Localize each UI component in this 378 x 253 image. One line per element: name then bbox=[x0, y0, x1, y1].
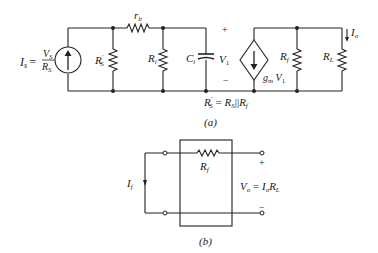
arrow-up-icon bbox=[65, 50, 72, 56]
terminal bbox=[163, 211, 167, 215]
circuit-diagram: Is= VS RS R′S rb Ri Ci V1 + − gm V1 Rf R… bbox=[0, 0, 378, 253]
io-arrow bbox=[345, 29, 349, 42]
label-io: Io bbox=[350, 26, 359, 40]
resistor-rs-prime bbox=[109, 28, 117, 91]
arrow-down-icon bbox=[143, 180, 147, 186]
capacitor-ci bbox=[198, 54, 214, 59]
resistor-rb bbox=[127, 24, 149, 32]
label-v1: V1 bbox=[219, 53, 230, 67]
label-v1-minus: − bbox=[223, 75, 229, 86]
equation-rs-prime: R′S = RS||Rf bbox=[203, 95, 249, 110]
label-minus-b: − bbox=[259, 202, 265, 213]
figure-b: Rf If Vo = IoRL + − (b) bbox=[126, 140, 280, 248]
terminal bbox=[260, 151, 264, 155]
resistor-rl bbox=[338, 28, 346, 91]
label-rf: Rf bbox=[279, 50, 290, 64]
label-rs: RS bbox=[41, 61, 52, 74]
arrow-down-icon bbox=[251, 64, 258, 70]
label-is: Is= bbox=[19, 55, 36, 70]
label-ci: Ci bbox=[186, 52, 195, 66]
arrow-down-icon bbox=[345, 37, 349, 42]
label-plus-b: + bbox=[259, 157, 265, 168]
label-if: If bbox=[126, 177, 134, 191]
current-source bbox=[55, 47, 81, 73]
terminal bbox=[163, 151, 167, 155]
label-gm-v1: gm V1 bbox=[263, 72, 286, 85]
label-rf-b: Rf bbox=[199, 160, 210, 174]
label-rl: RL bbox=[322, 50, 334, 64]
label-vo: Vo = IoRL bbox=[240, 180, 280, 194]
label-ri: Ri bbox=[147, 52, 157, 66]
label-rs-prime: R′S bbox=[94, 53, 104, 68]
label-v1-plus: + bbox=[222, 24, 228, 35]
resistor-ri bbox=[159, 28, 167, 91]
label-rb: rb bbox=[134, 9, 142, 23]
figure-a: Is= VS RS R′S rb Ri Ci V1 + − gm V1 Rf R… bbox=[19, 9, 359, 129]
resistor-rf-b bbox=[197, 150, 219, 156]
caption-a: (a) bbox=[204, 116, 217, 129]
caption-b: (b) bbox=[199, 235, 212, 248]
label-vs: VS bbox=[43, 48, 53, 61]
resistor-rf bbox=[293, 28, 301, 91]
